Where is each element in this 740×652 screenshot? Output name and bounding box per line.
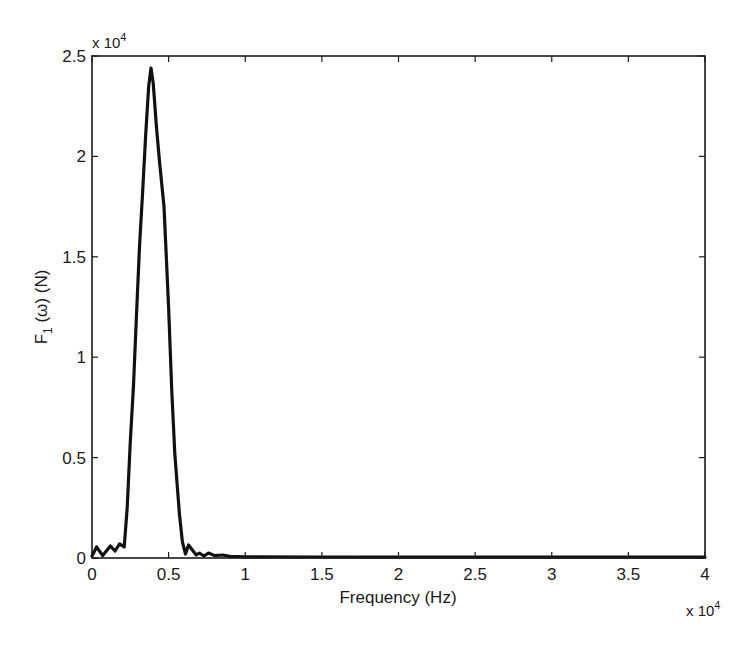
axes-box [92, 56, 705, 558]
series-line [92, 68, 705, 557]
x-tick-label: 2 [394, 565, 403, 584]
y-tick-label: 1.5 [62, 248, 86, 267]
y-axis-title-rest: (ω) (N) [32, 270, 51, 328]
x-axis-title: Frequency (Hz) [339, 588, 456, 607]
y-axis-title: F1 (ω) (N) [32, 270, 55, 345]
x-tick-label: 0.5 [157, 565, 181, 584]
x-tick-label: 1 [241, 565, 250, 584]
y-axis-multiplier: x 104 [92, 31, 126, 51]
y-tick-label: 1 [77, 348, 86, 367]
line-chart: 00.511.522.533.54 00.511.522.5 Frequency… [0, 0, 740, 652]
x-tick-label: 1.5 [310, 565, 334, 584]
y-tick-label: 2 [77, 147, 86, 166]
x-tick-label: 4 [700, 565, 709, 584]
data-series-f1 [92, 68, 705, 557]
x-axis-multiplier: x 104 [686, 599, 720, 619]
x-axis-ticks: 00.511.522.533.54 [87, 56, 709, 584]
x-tick-label: 3 [547, 565, 556, 584]
y-tick-label: 0 [77, 549, 86, 568]
y-tick-label: 0.5 [62, 449, 86, 468]
y-tick-label: 2.5 [62, 47, 86, 66]
x-tick-label: 0 [87, 565, 96, 584]
y-axis-ticks: 00.511.522.5 [62, 47, 705, 568]
x-tick-label: 2.5 [463, 565, 487, 584]
x-tick-label: 3.5 [617, 565, 641, 584]
y-axis-title-main: F [32, 334, 51, 344]
